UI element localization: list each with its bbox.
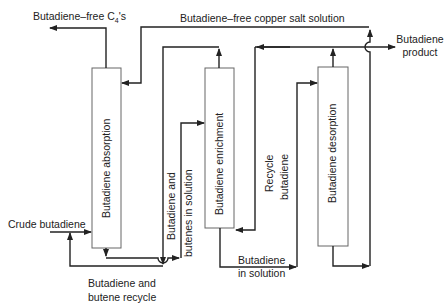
lean-solvent-riser <box>365 30 370 266</box>
butadiene-solution-riser <box>297 83 317 267</box>
copper-salt-label: Butadiene–free copper salt solution <box>180 12 345 25</box>
rich-solution-line <box>106 258 179 263</box>
process-flow-diagram: Butadiene–free C4's Butadiene–free coppe… <box>0 0 445 306</box>
absorption-label: Butadiene absorption <box>100 119 113 218</box>
c4-outlet-label: Butadiene–free C4's <box>33 10 126 27</box>
recycle-c4-label: Butadiene and butene recycle <box>88 276 156 304</box>
butenes-solution-label-1: Butadiene and <box>165 172 178 240</box>
desorption-bottom-line <box>333 246 369 266</box>
recycle-butadiene-label-2: butadiene <box>278 154 291 200</box>
product-label: Butadiene product <box>395 33 445 59</box>
copper-salt-line <box>122 27 369 83</box>
desorption-label: Butadiene desorption <box>326 104 339 203</box>
recycle-butadiene-label-1: Recycle <box>263 155 276 192</box>
butenes-solution-label-2: butenes in solution <box>182 169 195 257</box>
butadiene-solution-label: Butadiene in solution <box>238 254 285 280</box>
enrichment-label: Butadiene enrichment <box>213 113 226 215</box>
crude-feed-label: Crude butadiene <box>8 218 86 231</box>
recycle-butadiene-line <box>236 47 255 230</box>
c4-outlet-line <box>50 28 106 68</box>
recycle-c4-line <box>70 233 163 266</box>
